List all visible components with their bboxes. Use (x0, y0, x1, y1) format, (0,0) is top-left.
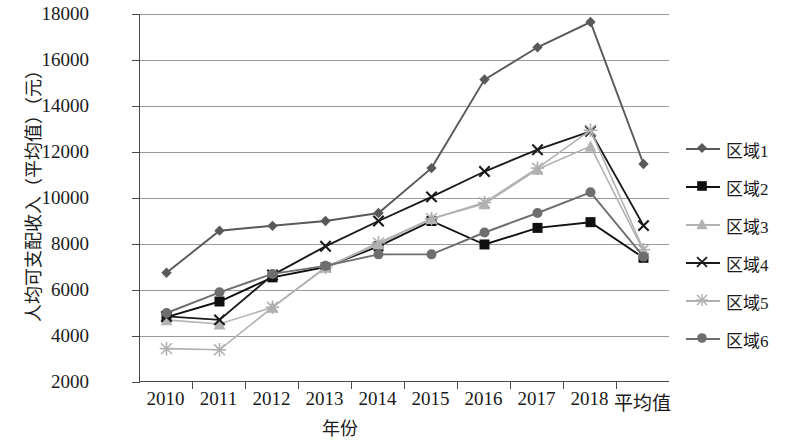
y-axis-tick-label: 12000 (5, 142, 89, 161)
legend-marker-circle-icon (686, 331, 720, 347)
data-point-circle (321, 261, 331, 271)
legend-marker-square-icon (686, 179, 720, 195)
data-point-x (479, 166, 489, 176)
y-axis-tick-label: 18000 (5, 4, 89, 23)
data-point-triangle (696, 218, 707, 229)
data-point-star (213, 343, 227, 357)
data-point-circle (374, 249, 384, 259)
data-point-diamond (479, 74, 489, 84)
x-axis-tick-label: 平均值 (603, 388, 683, 415)
series-1 (161, 17, 648, 278)
legend-label: 区域5 (726, 289, 769, 314)
legend-label: 区域4 (726, 251, 769, 276)
series-6 (162, 187, 649, 318)
data-point-circle (215, 287, 225, 297)
series-3 (161, 140, 650, 329)
data-point-star (266, 301, 280, 315)
data-point-star (160, 342, 174, 356)
plot-area (139, 14, 669, 382)
data-point-circle (533, 208, 543, 218)
y-axis-tick-mark (132, 382, 140, 383)
data-point-triangle (585, 140, 597, 151)
data-point-star (531, 161, 545, 175)
y-axis-tick-label: 8000 (5, 234, 89, 253)
data-point-circle (480, 228, 490, 238)
data-point-diamond (267, 221, 277, 231)
data-point-diamond (532, 42, 542, 52)
data-point-circle (268, 269, 278, 279)
data-point-x (697, 257, 707, 267)
data-point-circle (162, 308, 172, 318)
data-point-x (638, 220, 648, 230)
data-point-star (584, 123, 598, 136)
data-point-diamond (638, 159, 648, 169)
legend-marker-diamond-icon (686, 141, 720, 157)
series-line (167, 130, 644, 350)
legend-marker-star-icon (686, 293, 720, 309)
series-line (167, 146, 644, 324)
series-5 (160, 123, 651, 356)
legend-marker-x-icon (686, 255, 720, 271)
data-point-circle (697, 333, 707, 343)
y-axis-tick-label: 2000 (5, 372, 89, 391)
data-point-circle (427, 249, 437, 259)
data-point-diamond (585, 17, 595, 27)
legend-item-5[interactable]: 区域5 (686, 282, 791, 320)
data-series-lines (140, 14, 670, 382)
data-point-star (696, 294, 708, 306)
data-point-square (215, 297, 225, 307)
chart-container: 人均可支配收入（平均值）（元） 180001600014000120001000… (0, 0, 795, 445)
legend-label: 区域6 (726, 327, 769, 352)
legend-item-1[interactable]: 区域1 (686, 130, 791, 168)
data-point-square (480, 239, 490, 249)
series-line (167, 131, 644, 320)
series-line (167, 22, 644, 273)
data-point-square (533, 223, 543, 233)
series-line (167, 192, 644, 313)
data-point-star (425, 212, 439, 226)
data-point-circle (586, 187, 596, 197)
y-axis-tick-label: 10000 (5, 188, 89, 207)
x-axis-title: 年份 (0, 414, 680, 440)
data-point-x (426, 192, 436, 202)
legend-item-3[interactable]: 区域3 (686, 206, 791, 244)
y-axis-tick-label: 4000 (5, 326, 89, 345)
data-point-star (478, 196, 492, 210)
data-point-square (697, 181, 707, 191)
data-point-diamond (320, 216, 330, 226)
legend-label: 区域2 (726, 175, 769, 200)
legend-item-6[interactable]: 区域6 (686, 320, 791, 358)
legend-item-2[interactable]: 区域2 (686, 168, 791, 206)
data-point-circle (639, 252, 649, 262)
legend-marker-triangle-icon (686, 217, 720, 233)
data-point-x (532, 145, 542, 155)
data-point-x (320, 241, 330, 251)
series-line (167, 221, 644, 317)
legend-label: 区域3 (726, 213, 769, 238)
data-point-diamond (697, 143, 707, 153)
legend-label: 区域1 (726, 137, 769, 162)
y-axis-tick-label: 14000 (5, 96, 89, 115)
y-axis-tick-label: 16000 (5, 50, 89, 69)
legend: 区域1区域2区域3区域4区域5区域6 (686, 130, 791, 358)
data-point-star (372, 236, 386, 250)
legend-item-4[interactable]: 区域4 (686, 244, 791, 282)
y-axis-tick-label: 6000 (5, 280, 89, 299)
data-point-square (586, 217, 596, 227)
